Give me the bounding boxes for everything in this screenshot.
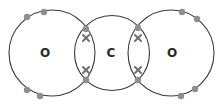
electron-dot-icon: [37, 93, 43, 99]
oxygen-right-label: O: [167, 46, 177, 60]
shared-electron-dot-icon: [135, 77, 141, 83]
shared-electron-cross-icon: [83, 35, 89, 41]
shared-electron-dot-icon: [83, 77, 89, 83]
electron-dot-icon: [194, 16, 200, 22]
oxygen-left-label: O: [40, 46, 50, 60]
electron-dot-icon: [24, 87, 30, 93]
electron-dot-icon: [178, 93, 184, 99]
shared-electron-dot-icon: [135, 25, 141, 31]
electron-dot-icon: [41, 9, 47, 15]
co2-dot-cross-diagram: OCO: [0, 0, 217, 107]
oxygen-left-shell: [9, 10, 95, 96]
atom-labels: OCO: [40, 46, 177, 60]
shared-electron-cross-icon: [135, 35, 141, 41]
electron-dot-icon: [24, 14, 30, 20]
shared-electron-dot-icon: [83, 26, 89, 32]
electron-dot-icon: [192, 86, 198, 92]
shared-electron-cross-icon: [135, 67, 141, 73]
electron-dot-icon: [179, 9, 185, 15]
shared-electron-cross-icon: [83, 67, 89, 73]
carbon-label: C: [107, 46, 116, 60]
